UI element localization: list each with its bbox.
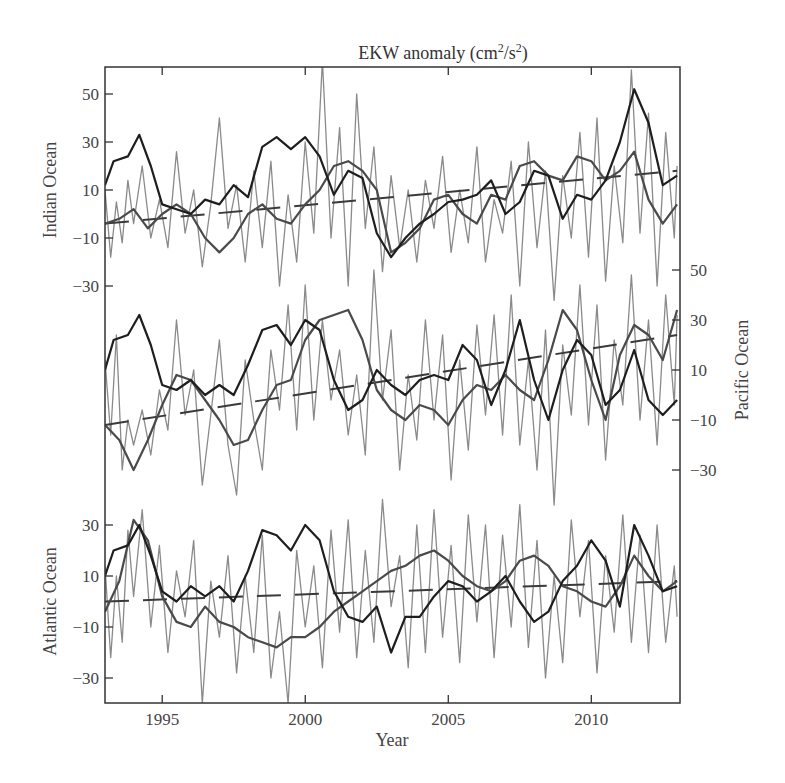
y-tick-label: 50 [690, 261, 707, 280]
series-raw-monthly [105, 270, 677, 505]
x-tick-label: 2000 [288, 710, 322, 729]
y-tick-label: −10 [690, 411, 717, 430]
y-tick-label: 30 [690, 311, 707, 330]
y-tick-label: 50 [82, 85, 99, 104]
y-tick-label: −30 [72, 277, 99, 296]
ekw-anomaly-chart: EKW anomaly (cm2/s2) 1995200020052010 50… [0, 0, 785, 783]
x-axis-title: Year [375, 730, 408, 750]
y-tick-label: 30 [82, 133, 99, 152]
panel-atlantic-ocean [105, 500, 677, 704]
y-tick-label: −30 [72, 669, 99, 688]
y-tick-label: 10 [82, 181, 99, 200]
y-tick-label: −10 [72, 618, 99, 637]
y-axis-pacific-ocean: 503010−10−30Pacific Ocean [672, 261, 752, 480]
series-smoothed-a [105, 89, 677, 257]
y-tick-label: −30 [690, 461, 717, 480]
y-tick-label: 10 [690, 361, 707, 380]
x-tick-label: 2005 [431, 710, 465, 729]
y-axis-indian-ocean: 503010−10−30Indian Ocean [40, 85, 113, 296]
series-raw-monthly [105, 60, 677, 300]
y-tick-label: −10 [72, 229, 99, 248]
y-tick-label: 30 [82, 516, 99, 535]
y-axis-title: Indian Ocean [40, 142, 60, 238]
panel-indian-ocean [105, 60, 677, 300]
x-tick-label: 1995 [145, 710, 179, 729]
y-axis-atlantic-ocean: 3010−10−30Atlantic Ocean [40, 516, 113, 688]
chart-title: EKW anomaly (cm2/s2) [358, 41, 528, 64]
panel-pacific-ocean [105, 270, 677, 505]
y-axis-title: Pacific Ocean [732, 320, 752, 420]
y-tick-label: 10 [82, 567, 99, 586]
y-axis-title: Atlantic Ocean [40, 547, 60, 655]
plot-area [105, 60, 677, 703]
x-tick-label: 2010 [574, 710, 608, 729]
